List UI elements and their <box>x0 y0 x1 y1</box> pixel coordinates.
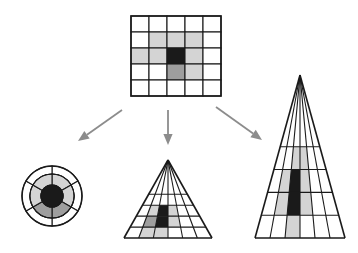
grid-cell-empty <box>149 16 167 32</box>
grid-cell-empty <box>167 80 185 96</box>
grid-cell-light <box>185 48 203 64</box>
grid-cell-light <box>149 48 167 64</box>
arrow-to-polar-shaft <box>87 110 122 135</box>
grid-cell-empty <box>185 16 203 32</box>
grid-cell-light <box>149 32 167 48</box>
grid-cell-empty <box>149 64 167 80</box>
grid-cell-empty <box>203 16 221 32</box>
grid-cell-empty <box>131 32 149 48</box>
polar-grid <box>22 166 82 226</box>
grid-cell-light <box>185 32 203 48</box>
arrow-to-cone-tall-head <box>250 130 262 140</box>
grid-cell-empty <box>203 64 221 80</box>
arrow-to-cone-tall-shaft <box>216 107 253 134</box>
arrow-to-polar-head <box>78 131 90 141</box>
grid-cell-light <box>167 32 185 48</box>
grid-cell-empty <box>203 48 221 64</box>
arrow-to-cone-wide-head <box>163 134 172 145</box>
cartesian-grid <box>131 16 221 96</box>
grid-cell-empty <box>167 16 185 32</box>
grid-cell-empty <box>131 64 149 80</box>
diagram-svg <box>0 0 358 253</box>
cone-wide <box>124 160 212 238</box>
grid-cell-empty <box>185 80 203 96</box>
grid-cell-empty <box>203 32 221 48</box>
grid-cell-empty <box>149 80 167 96</box>
grid-cell-empty <box>131 80 149 96</box>
grid-cell-empty <box>131 16 149 32</box>
grid-cell-dark <box>167 48 185 64</box>
cone-tall <box>255 75 345 238</box>
grid-cell-light <box>131 48 149 64</box>
arrow-group <box>78 107 262 145</box>
grid-cell-empty <box>203 80 221 96</box>
figure-canvas <box>0 0 358 253</box>
grid-cell-light <box>185 64 203 80</box>
grid-cell-medium <box>167 64 185 80</box>
